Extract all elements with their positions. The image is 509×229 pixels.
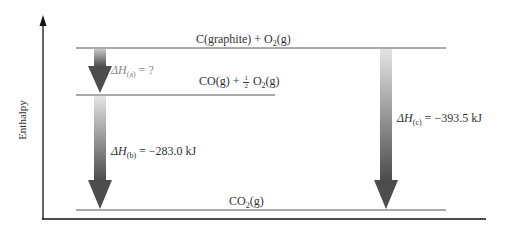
y-axis (40, 15, 47, 219)
level-label-middle: CO(g) + 12 O2(g) (199, 75, 280, 90)
one-half-fraction: 12 (243, 75, 249, 90)
level-label-bottom: CO2(g) (229, 195, 264, 210)
arrow-label-b: ΔH(b) = −283.0 kJ (111, 145, 196, 160)
arrow-a-down-icon (88, 49, 112, 93)
level-label-top: C(graphite) + O2(g) (196, 33, 291, 48)
axis-arrow-up-icon (40, 15, 47, 26)
arrow-label-c: ΔH(c) = −393.5 kJ (397, 112, 482, 127)
arrow-b-down-icon (88, 96, 112, 209)
arrow-c-down-icon (374, 49, 398, 209)
arrow-label-a: ΔH(a) = ? (111, 64, 154, 79)
y-axis-label: Enthalpy (16, 100, 28, 140)
